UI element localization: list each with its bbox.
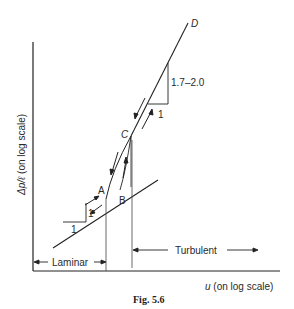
laminar-slope-run: 1	[71, 224, 77, 235]
figure-caption: Fig. 5.6	[133, 294, 164, 305]
turbulent-slope-rise: 1.7–2.0	[171, 77, 205, 88]
laminar-slope-rise: 1	[88, 208, 94, 219]
laminar-line	[53, 180, 158, 248]
y-axis-label: Δp/ℓ (on log scale)	[16, 114, 27, 196]
y-axis-rest: (on log scale)	[16, 114, 27, 177]
x-axis-rest: (on log scale)	[211, 281, 274, 292]
y-axis-var: Δp/ℓ	[16, 176, 27, 196]
arrow-up-laminar	[85, 196, 99, 205]
figure-diagram: D C A B 1.7–2.0 1 1 1 Laminar Turbulent …	[0, 0, 294, 309]
point-label-a: A	[98, 185, 105, 196]
x-axis-label: u (on log scale)	[205, 281, 273, 292]
point-label-b: B	[119, 195, 126, 206]
laminar-region-label: Laminar	[52, 257, 89, 268]
turbulent-slope-run: 1	[158, 109, 164, 120]
arrow-down-turbulent	[134, 98, 145, 119]
transition-curve-upper	[106, 136, 131, 199]
turbulent-region-label: Turbulent	[175, 245, 217, 256]
point-label-c: C	[121, 129, 129, 140]
laminar-slope-triangle	[63, 203, 86, 222]
point-label-d: D	[191, 18, 198, 29]
